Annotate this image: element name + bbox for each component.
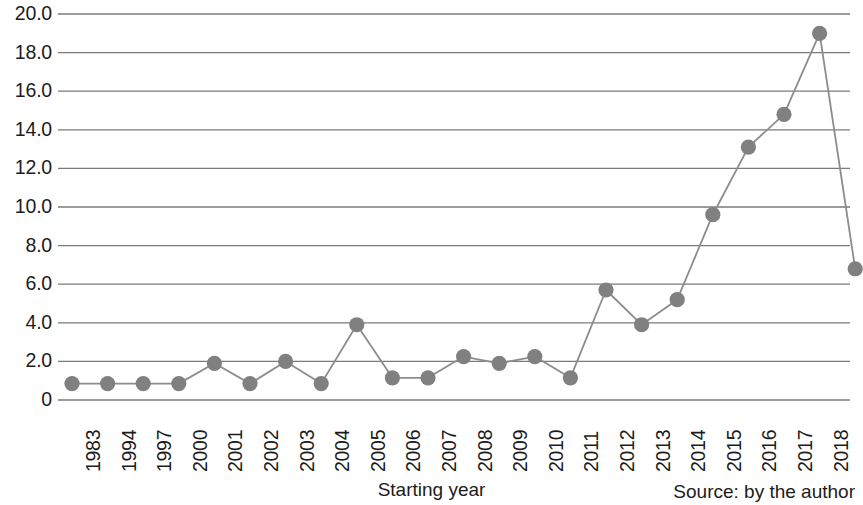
- data-point-marker: [598, 282, 613, 297]
- x-axis-tick-label: 2014: [686, 402, 710, 472]
- data-point-marker: [705, 207, 720, 222]
- plot-svg: [58, 0, 850, 410]
- y-axis-tick-label: 20.0: [0, 4, 52, 24]
- x-axis-tick-label: 2018: [829, 402, 853, 472]
- x-axis-tick-label: 2015: [722, 402, 746, 472]
- data-point-marker: [812, 26, 827, 41]
- y-axis-tick-label: 10.0: [0, 197, 52, 217]
- data-point-marker: [456, 349, 471, 364]
- data-point-marker: [242, 376, 257, 391]
- x-axis-tick-label: 1997: [152, 402, 176, 472]
- data-point-marker: [848, 261, 863, 276]
- y-axis-tick-label: 2.0: [0, 352, 52, 372]
- data-point-marker: [741, 140, 756, 155]
- x-axis-tick-label: 2013: [651, 402, 675, 472]
- x-axis-tick-label: 2009: [508, 402, 532, 472]
- data-point-marker: [100, 376, 115, 391]
- data-point-marker: [136, 376, 151, 391]
- y-axis-tick-label: 4.0: [0, 313, 52, 333]
- x-axis-tick-label: 2016: [757, 402, 781, 472]
- data-line: [72, 33, 855, 383]
- gridlines: [58, 14, 850, 400]
- x-axis-tick-label: 2008: [473, 402, 497, 472]
- series-line: [72, 33, 855, 383]
- data-point-marker: [634, 317, 649, 332]
- y-axis-tick-labels: 20.018.016.014.012.010.08.06.04.02.00: [0, 0, 52, 410]
- data-point-marker: [492, 356, 507, 371]
- y-axis-tick-label: 0: [0, 390, 52, 410]
- line-chart: 20.018.016.014.012.010.08.06.04.02.00 19…: [0, 0, 863, 505]
- data-point-marker: [776, 107, 791, 122]
- plot-area: [58, 0, 850, 410]
- x-axis-tick-label: 2012: [615, 402, 639, 472]
- data-point-marker: [207, 356, 222, 371]
- x-axis-tick-label: 2000: [188, 402, 212, 472]
- data-point-marker: [385, 370, 400, 385]
- data-point-marker: [420, 370, 435, 385]
- data-point-marker: [171, 376, 186, 391]
- x-axis-tick-label: 2017: [793, 402, 817, 472]
- series-markers: [64, 26, 862, 391]
- x-axis-tick-label: 2011: [579, 402, 603, 472]
- data-point-marker: [349, 317, 364, 332]
- x-axis-tick-label: 2001: [223, 402, 247, 472]
- data-point-marker: [527, 349, 542, 364]
- x-axis-tick-label: 1994: [117, 402, 141, 472]
- x-axis-tick-label: 2010: [544, 402, 568, 472]
- x-axis-tick-label: 2005: [366, 402, 390, 472]
- data-point-marker: [314, 376, 329, 391]
- x-axis-tick-label: 2006: [401, 402, 425, 472]
- y-axis-tick-label: 14.0: [0, 120, 52, 140]
- data-point-marker: [563, 370, 578, 385]
- data-point-marker: [278, 354, 293, 369]
- x-axis-tick-label: 2004: [330, 402, 354, 472]
- y-axis-tick-label: 18.0: [0, 43, 52, 63]
- data-point-marker: [64, 376, 79, 391]
- y-axis-tick-label: 6.0: [0, 274, 52, 294]
- x-axis-tick-label: 2007: [437, 402, 461, 472]
- data-point-marker: [670, 292, 685, 307]
- x-axis-tick-label: 2002: [259, 402, 283, 472]
- y-axis-tick-label: 8.0: [0, 236, 52, 256]
- x-axis-tick-label: 2003: [295, 402, 319, 472]
- y-axis-tick-label: 12.0: [0, 159, 52, 179]
- source-note: Source: by the author: [673, 481, 855, 503]
- x-axis-tick-labels: 1983199419972000200120022003200420052006…: [58, 404, 850, 474]
- y-axis-tick-label: 16.0: [0, 81, 52, 101]
- x-axis-tick-label: 1983: [81, 402, 105, 472]
